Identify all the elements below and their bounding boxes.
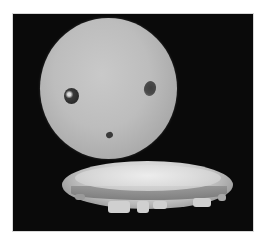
dish-foot-3 bbox=[153, 201, 167, 209]
dish-foot-6 bbox=[75, 194, 85, 200]
dish-foot-4 bbox=[193, 198, 211, 207]
photograph bbox=[13, 14, 253, 231]
dish-foot-2 bbox=[137, 201, 149, 213]
dish-foot-5 bbox=[218, 194, 226, 201]
dish-surface bbox=[75, 165, 221, 191]
left-eye-spot bbox=[64, 88, 79, 104]
dish-foot-1 bbox=[108, 201, 130, 213]
